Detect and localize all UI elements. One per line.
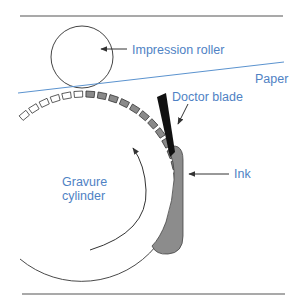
ink-filled-cell bbox=[130, 104, 140, 114]
empty-cell bbox=[39, 98, 49, 107]
ink-filled-cell bbox=[109, 95, 119, 103]
impression-roller bbox=[51, 26, 113, 88]
engraved-cells bbox=[19, 91, 181, 249]
doctor-blade-label: Doctor blade bbox=[172, 90, 243, 104]
ink-filled-cell bbox=[97, 92, 107, 100]
empty-cell bbox=[74, 91, 83, 98]
gravure-diagram: Impression roller Paper Doctor blade Ink… bbox=[0, 0, 303, 305]
empty-cell bbox=[19, 110, 29, 120]
doctor-blade-arrow bbox=[178, 104, 188, 124]
ink-filled-cell bbox=[155, 128, 165, 139]
empty-cell bbox=[50, 94, 60, 102]
empty-cell bbox=[29, 104, 39, 114]
ink-reservoir bbox=[152, 146, 183, 254]
ink-filled-cell bbox=[119, 99, 129, 108]
ink-label: Ink bbox=[234, 167, 251, 181]
paper-label: Paper bbox=[255, 72, 288, 86]
ink-filled-cell bbox=[86, 91, 95, 98]
ink-filled-cell bbox=[139, 111, 149, 121]
gravure-cylinder-label-line2: cylinder bbox=[62, 189, 107, 203]
gravure-cylinder-outline bbox=[20, 246, 156, 281]
gravure-cylinder-label: Gravure cylinder bbox=[62, 175, 107, 203]
empty-cell bbox=[62, 92, 72, 100]
impression-roller-label: Impression roller bbox=[132, 43, 224, 57]
ink-filled-cell bbox=[148, 119, 158, 129]
gravure-cylinder-label-line1: Gravure bbox=[62, 175, 107, 189]
